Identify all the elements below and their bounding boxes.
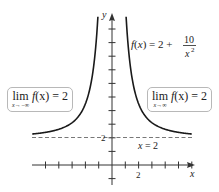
lim-subscript: x→∞ — [152, 102, 168, 108]
right-limit-callout: lim x→∞ f(x) = 2 — [147, 87, 212, 112]
lim-expression: f(x) = 2 — [32, 90, 68, 102]
x-axis-label: x — [189, 168, 195, 179]
function-label: f(x) = 2 + 10 x 2 — [131, 34, 196, 59]
lim-expression-rest: (x) = 2 — [35, 89, 68, 103]
lim-operator: lim x→∞ — [152, 90, 168, 108]
lim-word: lim — [12, 90, 29, 102]
function-label-denominator: x — [184, 48, 190, 59]
function-label-exponent: 2 — [191, 46, 195, 54]
function-label-numerator: 10 — [184, 34, 194, 45]
lim-expression: f(x) = 2 — [171, 90, 207, 102]
asymptote-label: x = 2 — [137, 140, 158, 151]
x-tick-label-2: 2 — [136, 170, 141, 180]
lim-word: lim — [152, 90, 168, 102]
y-tick-label-2: 2 — [101, 133, 106, 143]
left-limit-callout: lim x→−∞ f(x) = 2 — [7, 87, 73, 112]
function-label-lhs: f(x) = 2 + — [131, 38, 172, 51]
lim-operator: lim x→−∞ — [12, 90, 29, 108]
curve-right-branch — [126, 17, 192, 134]
asymptote-label-rest: = 2 — [142, 140, 158, 151]
y-axis-arrow-icon — [109, 13, 115, 21]
y-axis-label: y — [101, 9, 107, 20]
curve-left-branch — [32, 17, 98, 134]
lim-expression-rest: (x) = 2 — [174, 89, 207, 103]
lim-subscript: x→−∞ — [12, 102, 29, 108]
